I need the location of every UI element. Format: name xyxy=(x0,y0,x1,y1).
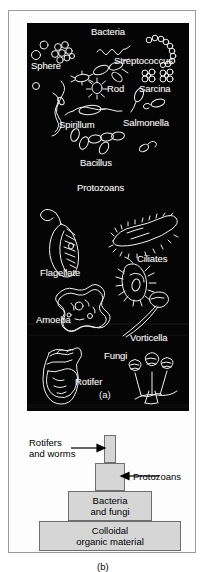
scan-band xyxy=(27,404,189,408)
spiky-coccus xyxy=(87,78,108,99)
sarcina-packet xyxy=(160,69,173,82)
label-rod: Rod xyxy=(107,84,124,94)
label-amoeba: Amoeba xyxy=(36,315,71,325)
salmonella-cell xyxy=(143,98,166,109)
label-rotifer: Rotifer xyxy=(75,377,102,387)
spirillum-cell xyxy=(53,93,59,132)
label-ciliates: Ciliates xyxy=(137,254,167,264)
spirochete xyxy=(97,46,130,55)
callout-rotifers-and-worms: Rotifers and worms xyxy=(29,437,75,459)
sphere-cell xyxy=(40,41,48,49)
ciliate-paramecium xyxy=(109,213,178,258)
panel-b-pyramid-diagram: Bacteria and fungi Colloidal organic mat… xyxy=(9,415,195,553)
sphere-cell xyxy=(33,83,40,90)
flagellated-rod xyxy=(71,71,93,85)
bacillus-chain xyxy=(69,128,125,156)
callout-rotifers-line-2: and worms xyxy=(29,448,75,459)
rotifers-arrowhead xyxy=(97,445,105,452)
label-bacillus: Bacillus xyxy=(80,158,112,168)
protozoans-arrowhead xyxy=(121,473,129,480)
panel-a-micrograph-plate: Bacteria Sphere Streptococcus Rod Sarcin… xyxy=(27,23,189,411)
sphere-cell xyxy=(32,51,41,60)
panel-b-letter: (b) xyxy=(97,561,109,572)
spirillum-with-flagella xyxy=(65,104,122,115)
label-bacteria: Bacteria xyxy=(91,27,125,37)
vibrio-cell xyxy=(57,96,66,106)
fungi-conidiophores xyxy=(129,353,177,404)
label-streptococcus: Streptococcus xyxy=(114,56,173,66)
label-protozoans: Protozoans xyxy=(77,183,124,193)
callout-leader-lines xyxy=(9,415,195,553)
rod-cell xyxy=(92,63,110,76)
callout-protozoans: Protozoans xyxy=(133,471,181,482)
label-vorticella: Vorticella xyxy=(130,333,168,343)
label-flagellate: Flagellate xyxy=(40,268,80,278)
flagellated-bacillus xyxy=(138,141,156,153)
label-spirillum: Spirillum xyxy=(59,120,95,130)
callout-rotifers-line-1: Rotifers xyxy=(29,437,75,448)
panel-a-letter: (a) xyxy=(99,389,111,400)
figure-frame: Bacteria Sphere Streptococcus Rod Sarcin… xyxy=(8,10,196,553)
ciliate-bell xyxy=(116,257,156,306)
vorticella xyxy=(123,292,169,337)
label-fungi: Fungi xyxy=(104,351,127,361)
rod-cell xyxy=(110,71,124,84)
sphere-cell xyxy=(70,54,75,59)
label-sphere: Sphere xyxy=(31,61,61,71)
label-sarcina: Sarcina xyxy=(139,84,171,94)
sarcina-packet xyxy=(142,69,155,82)
label-salmonella: Salmonella xyxy=(123,118,169,128)
